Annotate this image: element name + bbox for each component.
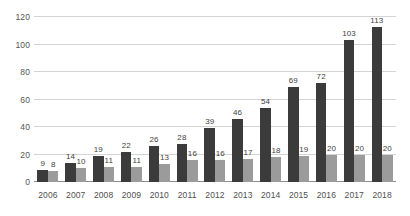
bar: [382, 155, 393, 183]
x-axis-tick-label: 2016: [312, 190, 340, 200]
bar: [187, 160, 198, 182]
x-axis-tick-label: 2011: [173, 190, 201, 200]
bar: [271, 157, 282, 182]
x-axis-tick-label: 2012: [201, 190, 229, 200]
bar-value-label: 22: [117, 142, 136, 150]
bar-value-label: 54: [256, 98, 275, 106]
bar: [149, 146, 160, 182]
bar: [243, 159, 254, 182]
bar-value-label: 13: [155, 154, 174, 162]
x-axis-tick-label: 2017: [340, 190, 368, 200]
bar-group: 7220: [312, 17, 340, 182]
x-axis-tick-label: 2014: [257, 190, 285, 200]
bar-value-label: 19: [89, 146, 108, 154]
bar: [131, 167, 142, 182]
bar-group: 5418: [257, 17, 285, 182]
bar-value-label: 16: [183, 150, 202, 158]
bar: [37, 170, 48, 182]
bar: [104, 167, 115, 182]
bar-group: 2613: [145, 17, 173, 182]
bar-value-label: 17: [239, 149, 258, 157]
bar-value-label: 69: [284, 77, 303, 85]
x-axis-tick-label: 2018: [368, 190, 396, 200]
x-axis-tick-label: 2013: [229, 190, 257, 200]
bar-series-container: 9814101911221126132816391646175418691972…: [34, 17, 396, 182]
bar: [372, 27, 383, 182]
bar-group: 2816: [173, 17, 201, 182]
bar-value-label: 11: [127, 157, 146, 165]
bar-group: 98: [34, 17, 62, 182]
bar: [76, 168, 87, 182]
bar-group: 4617: [229, 17, 257, 182]
bar-value-label: 39: [201, 118, 220, 126]
bar: [354, 155, 365, 183]
bar-value-label: 113: [368, 17, 387, 25]
x-axis: 2006200720082009201020112012201320142015…: [34, 186, 396, 206]
y-axis: 020406080100120: [0, 17, 30, 182]
bar-value-label: 46: [228, 109, 247, 117]
bar-value-label: 8: [44, 161, 63, 169]
bar: [326, 155, 337, 183]
bar-group: 1410: [62, 17, 90, 182]
plot-area: 9814101911221126132816391646175418691972…: [34, 17, 396, 182]
bar: [288, 87, 299, 182]
y-axis-tick-label: 120: [0, 13, 30, 22]
bar-value-label: 20: [322, 145, 341, 153]
x-axis-tick-label: 2008: [90, 190, 118, 200]
bar-group: 10320: [340, 17, 368, 182]
bar: [344, 40, 355, 182]
bar-chart: 020406080100120 981410191122112613281639…: [0, 0, 410, 216]
bar-value-label: 19: [295, 146, 314, 154]
y-axis-tick-label: 40: [0, 123, 30, 132]
x-axis-tick-label: 2015: [285, 190, 313, 200]
bar-value-label: 103: [340, 30, 359, 38]
x-axis-tick-label: 2009: [118, 190, 146, 200]
bar: [316, 83, 327, 182]
bar-value-label: 26: [145, 136, 164, 144]
bar-value-label: 11: [100, 157, 119, 165]
bar: [48, 171, 59, 182]
bar: [260, 108, 271, 182]
y-axis-tick-label: 20: [0, 150, 30, 159]
bar-group: 2211: [118, 17, 146, 182]
x-axis-tick-label: 2007: [62, 190, 90, 200]
bar-value-label: 20: [378, 145, 397, 153]
y-axis-tick-label: 60: [0, 95, 30, 104]
bar-value-label: 72: [312, 73, 331, 81]
bar-value-label: 18: [267, 147, 286, 155]
bar: [159, 164, 170, 182]
y-axis-tick-label: 80: [0, 68, 30, 77]
bar-value-label: 20: [350, 145, 369, 153]
bar-group: 3916: [201, 17, 229, 182]
bar-group: 6919: [285, 17, 313, 182]
bar-value-label: 16: [211, 150, 230, 158]
bar-value-label: 10: [72, 158, 91, 166]
x-axis-tick-label: 2006: [34, 190, 62, 200]
x-axis-tick-label: 2010: [145, 190, 173, 200]
bar-group: 1911: [90, 17, 118, 182]
bar: [215, 160, 226, 182]
y-axis-tick-label: 0: [0, 178, 30, 187]
bar: [299, 156, 310, 182]
bar-group: 11320: [368, 17, 396, 182]
bar-value-label: 28: [173, 134, 192, 142]
y-axis-tick-label: 100: [0, 40, 30, 49]
